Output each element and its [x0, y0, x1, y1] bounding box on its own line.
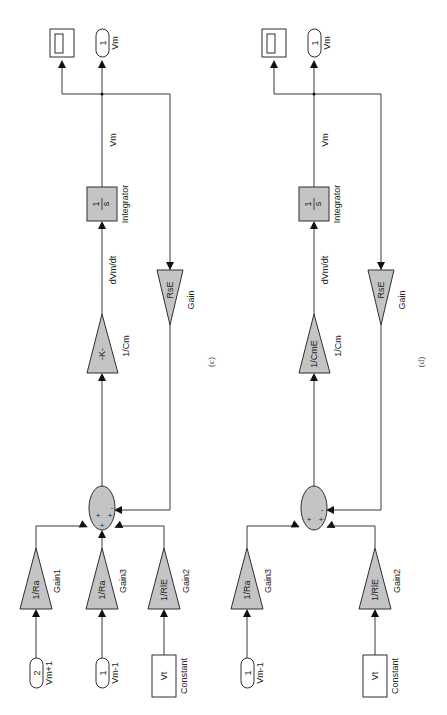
gain-1-cme[interactable]: 1/CmE: [299, 314, 330, 373]
wire-feedback: [62, 94, 170, 270]
inport-vm-plus-1[interactable]: 2: [30, 658, 43, 688]
gain-1[interactable]: 1/Ra: [20, 548, 52, 609]
inport-vm-minus-1[interactable]: 1: [241, 658, 254, 688]
inport-number: 1: [243, 670, 253, 675]
integrator-name: Integrator: [332, 185, 342, 224]
caption-c: (c): [206, 357, 216, 367]
outport-vm[interactable]: 1 Vm: [308, 29, 332, 57]
gain-value: 1/Ra: [242, 580, 252, 599]
sum-sign: +: [307, 515, 312, 524]
signal-label-dvmdt: dVm/dt: [320, 255, 330, 284]
gain-rse-name: Gain: [397, 290, 407, 309]
gain-rse[interactable]: RsE: [157, 270, 183, 325]
sum-sign: -: [111, 503, 114, 512]
gain-1-cm[interactable]: -K-: [87, 314, 118, 373]
integrator-block[interactable]: 1 s: [87, 187, 117, 221]
signal-label-vm: Vm: [320, 133, 330, 147]
gain-name: Gain2: [181, 569, 191, 593]
sum-sign: -: [321, 505, 324, 514]
outport-name: Vm: [110, 36, 120, 50]
scope-block[interactable]: [50, 29, 74, 57]
gain-cm-name: 1/Cm: [333, 335, 343, 357]
inport-name: Vm+1: [44, 661, 54, 685]
integrator-denominator: s: [101, 201, 111, 206]
diagram-c: 1 Vm Vm 1 s Integrator dVm/dt -K- 1/Cm: [20, 29, 216, 697]
gain-value: 1/RlE: [370, 579, 380, 601]
sum-sign: +: [108, 511, 113, 520]
gain-name: Gain2: [392, 569, 402, 593]
gain-3[interactable]: 1/Ra: [86, 548, 118, 609]
sum-sign: +: [319, 515, 324, 524]
gain-name: Gain1: [52, 569, 62, 593]
integrator-numerator: 1: [91, 201, 101, 206]
integrator-denominator: s: [313, 201, 323, 206]
signal-label-vm: Vm: [108, 133, 118, 147]
inport-number: 1: [98, 670, 108, 675]
inport-vm-minus-1[interactable]: 1: [96, 658, 109, 688]
caption-d: (d): [416, 357, 426, 368]
gain-cm-value: 1/CmE: [309, 340, 319, 368]
sum-sign: +: [96, 511, 101, 520]
constant-name: Constant: [179, 657, 189, 694]
inport-name: Vm-1: [255, 662, 265, 684]
scope-block[interactable]: [262, 29, 286, 57]
integrator-name: Integrator: [120, 185, 130, 224]
outport-number: 1: [98, 40, 108, 45]
outport-name: Vm: [322, 36, 332, 50]
gain-cm-value: -K-: [97, 348, 107, 360]
constant-vt[interactable]: Vt: [152, 655, 176, 697]
outport-number: 1: [310, 40, 320, 45]
inport-number: 2: [32, 670, 42, 675]
constant-name: Constant: [390, 657, 400, 694]
diagram-d: 1 Vm Vm 1 s Integrator dVm/dt 1/CmE 1/Cm: [231, 29, 426, 697]
integrator-block[interactable]: 1 s: [299, 187, 329, 221]
constant-value: Vt: [159, 671, 169, 680]
constant-vt[interactable]: Vt: [363, 655, 387, 697]
gain-value: 1/Ra: [31, 580, 41, 599]
gain-rse[interactable]: RsE: [368, 270, 394, 325]
gain-name: Gain3: [118, 569, 128, 593]
outport-vm[interactable]: 1 Vm: [96, 29, 120, 57]
gain-rse-name: Gain: [186, 290, 196, 309]
signal-label-dvmdt: dVm/dt: [108, 255, 118, 284]
inport-name: Vm-1: [110, 662, 120, 684]
gain-rse-value: RsE: [165, 281, 175, 298]
gain-name: Gain3: [263, 569, 273, 593]
gain-value: 1/Ra: [97, 580, 107, 599]
constant-value: Vt: [370, 671, 380, 680]
gain-2[interactable]: 1/RlE: [359, 548, 391, 609]
gain-3[interactable]: 1/Ra: [231, 548, 263, 609]
sum-block[interactable]: + + -: [301, 486, 327, 530]
gain-2[interactable]: 1/RlE: [148, 548, 180, 609]
integrator-numerator: 1: [303, 201, 313, 206]
gain-value: 1/RlE: [159, 579, 169, 601]
gain-rse-value: RsE: [376, 281, 386, 298]
sum-block[interactable]: + + + -: [89, 486, 115, 530]
gain-cm-name: 1/Cm: [121, 335, 131, 357]
sum-sign: +: [100, 521, 105, 530]
